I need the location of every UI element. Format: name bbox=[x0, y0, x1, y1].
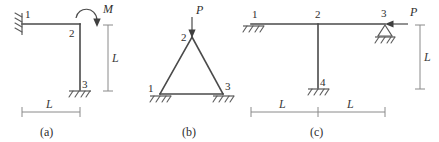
support-pin-triangle-node-c3 bbox=[375, 25, 395, 43]
load-label-M: M bbox=[102, 2, 114, 16]
caption-frame-a: (a) bbox=[40, 125, 53, 139]
load-label-P-b: P bbox=[195, 3, 204, 17]
node-label-b-1: 1 bbox=[148, 82, 154, 94]
member-b-2-1 bbox=[160, 37, 192, 94]
moment-arrowhead bbox=[93, 19, 100, 28]
support-fixed-wall-node-1 bbox=[15, 13, 22, 35]
support-fixed-ground-node-3 bbox=[69, 91, 91, 97]
node-label-b-2: 2 bbox=[181, 31, 187, 43]
dimension-label-c-right: L bbox=[346, 97, 354, 111]
caption-frame-c: (c) bbox=[310, 125, 323, 139]
load-arrow-P-c bbox=[385, 20, 408, 27]
caption-frame-b: (b) bbox=[182, 125, 196, 139]
node-label-c-2: 2 bbox=[315, 8, 321, 20]
member-b-2-3 bbox=[192, 37, 223, 94]
node-label-a-2: 2 bbox=[69, 27, 75, 39]
dimension-label-a-vertical: L bbox=[111, 51, 119, 65]
node-label-c-1: 1 bbox=[252, 8, 258, 20]
frame-a: M 1 2 3 L L (a) bbox=[15, 2, 119, 139]
support-hatched-ground-node-c1 bbox=[243, 26, 264, 32]
node-label-c-4: 4 bbox=[320, 76, 326, 88]
frame-b: P 1 2 3 (b) bbox=[148, 3, 234, 139]
structural-diagrams-figure: M 1 2 3 L L (a) bbox=[0, 0, 439, 142]
node-label-c-3: 3 bbox=[381, 7, 387, 19]
load-arrowhead-b bbox=[188, 30, 195, 39]
support-hatched-ground-node-b1 bbox=[150, 96, 171, 102]
load-arrow-P-b bbox=[188, 17, 195, 38]
node-label-a-3: 3 bbox=[82, 78, 88, 90]
load-label-P-c: P bbox=[409, 5, 418, 19]
dimension-label-c-vertical: L bbox=[423, 50, 431, 64]
figure-canvas: M 1 2 3 L L (a) bbox=[0, 0, 439, 142]
dimension-horizontal-c bbox=[251, 107, 385, 117]
support-hatched-ground-node-b3 bbox=[213, 96, 234, 102]
dimension-label-a-horizontal: L bbox=[45, 97, 53, 111]
frame-c: P 1 2 3 4 L L L (c) bbox=[243, 5, 431, 139]
node-label-a-1: 1 bbox=[25, 8, 31, 20]
node-label-b-3: 3 bbox=[225, 80, 231, 92]
dimension-label-c-left: L bbox=[278, 97, 286, 111]
support-hatched-ground-node-c4 bbox=[308, 89, 329, 95]
